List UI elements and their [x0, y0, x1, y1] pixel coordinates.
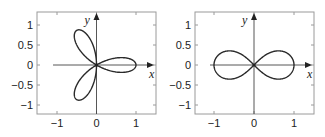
y-tick-label: −0.5 — [169, 79, 191, 91]
x-tick-label: −1 — [51, 117, 64, 129]
x-tick-label: 0 — [93, 117, 99, 129]
y-axis-arrow-icon — [251, 13, 257, 20]
y-tick-label: −1 — [178, 99, 191, 111]
y-tick-label: 0 — [27, 59, 33, 71]
y-tick-label: 0 — [185, 59, 191, 71]
x-tick-label: 0 — [251, 117, 257, 129]
x-tick-label: 1 — [291, 117, 297, 129]
y-tick-label: 1 — [185, 19, 191, 31]
y-axis-label: y — [84, 13, 91, 27]
x-tick-label: −1 — [208, 117, 221, 129]
x-axis-label: x — [148, 67, 155, 81]
y-tick-label: −0.5 — [11, 79, 33, 91]
plot-frame — [195, 12, 314, 114]
figure: −101−1−0.500.51xy −101−1−0.500.51xy — [0, 0, 325, 137]
y-tick-label: 0.5 — [18, 39, 33, 51]
y-tick-label: −1 — [20, 99, 33, 111]
origin-point — [95, 63, 98, 66]
y-axis-label: y — [241, 13, 248, 27]
origin-point — [252, 63, 255, 66]
y-axis-arrow-icon — [94, 13, 100, 20]
y-tick-label: 1 — [27, 19, 33, 31]
x-tick-label: 1 — [133, 117, 139, 129]
lemniscate-panel: −101−1−0.500.51xy — [169, 12, 314, 129]
x-axis-label: x — [306, 67, 313, 81]
rose-curve-panel: −101−1−0.500.51xy — [11, 12, 156, 129]
y-tick-label: 0.5 — [176, 39, 191, 51]
